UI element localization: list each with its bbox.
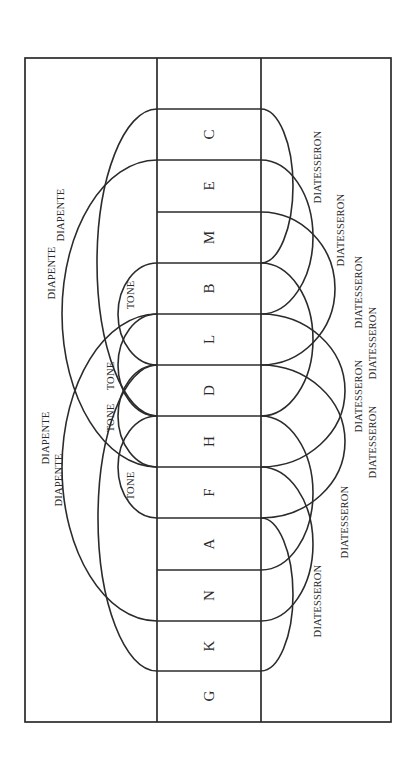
diatesseron-arc xyxy=(261,109,293,263)
diapente-label: DIAPENTE xyxy=(55,189,66,242)
note-f: F xyxy=(201,488,217,496)
diatesseron-arc xyxy=(261,314,345,467)
diapente-label: DIAPENTE xyxy=(46,247,57,300)
note-h: H xyxy=(201,436,217,447)
note-k: K xyxy=(201,640,217,651)
diatesseron-arc xyxy=(261,518,293,671)
note-d: D xyxy=(201,385,217,396)
diatesseron-label: DIATESSERON xyxy=(312,130,323,203)
diatesseron-arc xyxy=(261,467,313,621)
diatesseron-arc xyxy=(261,416,313,570)
diapente-label: DIAPENTE xyxy=(40,412,51,465)
diatesseron-arc xyxy=(261,160,313,314)
diapente-arc xyxy=(62,314,157,621)
note-a: A xyxy=(201,538,217,549)
note-g: G xyxy=(201,690,217,701)
diatesseron-arc xyxy=(261,365,345,518)
diagram-canvas: CEMBLDHFANKG DIAPENTEDIAPENTEDIAPENTEDIA… xyxy=(0,0,420,775)
interval-diagram: CEMBLDHFANKG DIAPENTEDIAPENTEDIAPENTEDIA… xyxy=(0,0,420,775)
diatesseron-label: DIATESSERON xyxy=(367,405,378,478)
note-n: N xyxy=(201,590,217,601)
note-e: E xyxy=(201,181,217,190)
diapente-label: DIAPENTE xyxy=(53,454,64,507)
diatesseron-label: DIATESSERON xyxy=(353,255,364,328)
tone-label: TONE xyxy=(125,472,136,501)
note-c: C xyxy=(201,129,217,139)
diatesseron-label: DIATESSERON xyxy=(339,485,350,558)
tone-label: TONE xyxy=(105,404,116,433)
note-m: M xyxy=(201,231,217,244)
note-l: L xyxy=(201,335,217,344)
tone-label: TONE xyxy=(125,281,136,310)
interval-labels: DIAPENTEDIAPENTEDIAPENTEDIAPENTETONETONE… xyxy=(40,130,378,637)
diatesseron-label: DIATESSERON xyxy=(367,306,378,379)
diatesseron-label: DIATESSERON xyxy=(335,193,346,266)
diatesseron-label: DIATESSERON xyxy=(353,359,364,432)
diatesseron-label: DIATESSERON xyxy=(312,564,323,637)
diatesseron-arc xyxy=(261,263,313,416)
tone-label: TONE xyxy=(105,362,116,391)
diatesseron-arc xyxy=(261,212,335,365)
note-b: B xyxy=(201,283,217,293)
